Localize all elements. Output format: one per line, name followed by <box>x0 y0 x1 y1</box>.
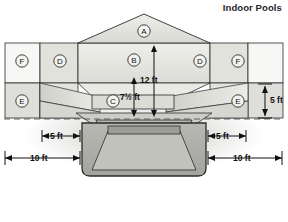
dim-label-10ft-left: 10 ft <box>30 153 47 163</box>
region-label-F-left: F <box>20 57 25 66</box>
dim-label-10ft-right: 10 ft <box>233 153 250 163</box>
region-F-right <box>248 43 283 83</box>
indoor-pools-diagram: A B C D D E E F F <box>0 0 288 222</box>
dim-label-5ft-left: 5 ft <box>50 131 63 141</box>
region-label-D-right: D <box>197 57 203 66</box>
region-label-C: C <box>110 97 116 106</box>
diagram-canvas: Indoor Pools <box>0 0 288 222</box>
arrow-left-10ft-left <box>5 155 12 161</box>
dim-label-5ft-vertical: 5 ft <box>270 95 283 105</box>
dim-label-12ft: 12 ft <box>140 75 157 85</box>
arrow-right-10ft-right <box>275 155 282 161</box>
region-label-B: B <box>131 56 136 65</box>
dim-label-7half-ft: 7½ ft <box>120 92 140 102</box>
region-label-E-left: E <box>19 97 24 106</box>
dim-label-5ft-right: 5 ft <box>216 131 229 141</box>
pool-basin-floor <box>92 131 196 170</box>
region-label-F-right: F <box>236 57 241 66</box>
region-label-A: A <box>141 27 147 36</box>
region-label-E-right: E <box>235 97 240 106</box>
region-label-D-left: D <box>57 57 63 66</box>
pool-basin-lip <box>108 126 180 134</box>
